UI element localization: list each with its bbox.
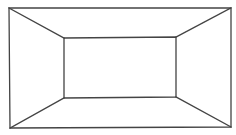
background [0,0,236,135]
perspective-box-diagram [0,0,236,135]
